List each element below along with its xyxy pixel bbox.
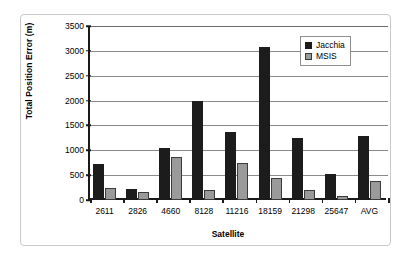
x-tick-label-AVG: AVG [349,206,389,216]
y-tick-label-3500: 3500 [65,21,84,31]
bar-msis-18159 [271,178,282,200]
bar-jacchia-25647 [325,174,336,200]
bar-msis-8128 [204,190,215,200]
y-tick-label-2000: 2000 [65,96,84,106]
bar-jacchia-4660 [159,148,170,200]
bar-chart: Total Position Error (m) 350030002500200… [0,0,411,261]
legend-item-msis: MSIS [305,51,345,61]
bar-jacchia-2826 [126,189,137,200]
y-axis-label: Total Position Error (m) [24,0,34,146]
y-tick-label-0: 0 [79,195,84,205]
x-tick-mark-origin [90,198,92,203]
bar-msis-2611 [105,188,116,200]
x-tick-mark-4660 [189,198,191,203]
y-tick-label-500: 500 [70,170,84,180]
x-tick-mark-11216 [256,198,258,203]
legend-swatch-jacchia [305,42,312,49]
bar-msis-2826 [138,192,149,200]
x-tick-mark-18159 [289,198,291,203]
bar-group-11216 [222,26,255,200]
y-tick-label-3000: 3000 [65,46,84,56]
x-tick-mark-21298 [322,198,324,203]
x-tick-mark-AVG [388,198,390,203]
bar-jacchia-2611 [93,164,104,200]
bar-group-4660 [156,26,189,200]
chart-legend: Jacchia MSIS [300,36,351,66]
bar-group-2611 [90,26,123,200]
bar-group-18159 [256,26,289,200]
bar-jacchia-8128 [192,101,203,200]
y-tick-label-1000: 1000 [65,145,84,155]
legend-label-jacchia: Jacchia [316,40,345,50]
bar-jacchia-AVG [358,136,369,200]
y-tick-label-1500: 1500 [65,120,84,130]
x-axis-label: Satellite [68,229,388,239]
bar-msis-11216 [237,163,248,200]
bar-msis-25647 [337,196,348,200]
y-tick-label-2500: 2500 [65,71,84,81]
bar-msis-AVG [370,181,381,200]
x-tick-mark-2826 [156,198,158,203]
bar-group-2826 [123,26,156,200]
bar-msis-4660 [171,157,182,200]
bar-group-8128 [189,26,222,200]
legend-label-msis: MSIS [316,51,337,61]
bar-group-AVG [355,26,388,200]
bar-jacchia-11216 [225,132,236,200]
legend-swatch-msis [305,53,312,60]
x-tick-mark-8128 [222,198,224,203]
legend-item-jacchia: Jacchia [305,40,345,50]
bar-msis-21298 [304,190,315,200]
bar-jacchia-21298 [292,138,303,200]
bar-jacchia-18159 [259,47,270,200]
x-tick-mark-25647 [355,198,357,203]
x-tick-mark-2611 [123,198,125,203]
